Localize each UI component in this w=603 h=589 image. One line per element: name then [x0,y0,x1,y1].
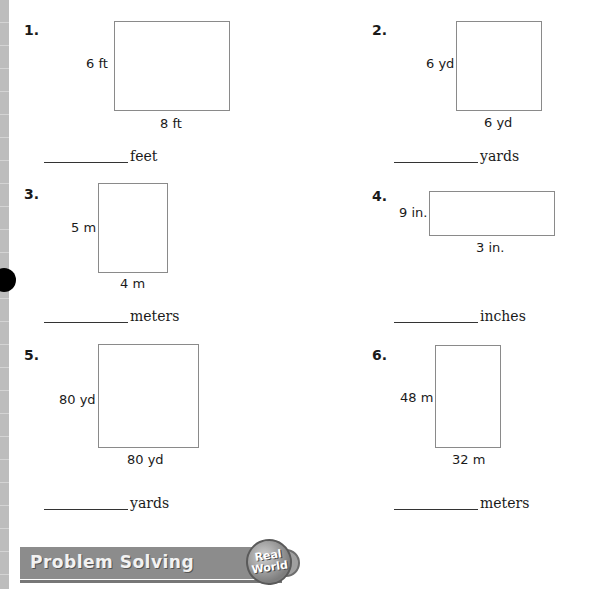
answer-unit: meters [480,496,529,510]
problem-number: 4. [372,188,387,204]
answer-unit: yards [480,149,519,163]
rectangle-figure [429,191,555,236]
binder-hole [0,268,16,292]
answer-blank[interactable] [394,495,478,510]
square-figure [98,344,199,448]
side-length-label: 6 yd [426,56,454,71]
rectangle-figure [98,183,168,273]
rectangle-figure [114,21,230,111]
bottom-length-label: 4 m [120,276,145,291]
answer-line[interactable]: yards [44,495,169,510]
answer-blank[interactable] [44,148,128,163]
bottom-length-label: 80 yd [127,452,164,467]
section-title: Problem Solving [30,552,194,572]
side-length-label: 6 ft [86,56,108,71]
answer-unit: inches [480,309,526,323]
answer-unit: yards [130,496,169,510]
page-edge-strip [0,0,9,589]
bottom-length-label: 3 in. [476,240,504,255]
problem-number: 2. [372,22,387,38]
answer-line[interactable]: meters [44,308,179,323]
problem-solving-banner: Problem Solving Real World [20,547,298,583]
banner-underline [20,580,282,583]
answer-unit: feet [130,149,157,163]
problem-number: 6. [372,347,387,363]
answer-line[interactable]: yards [394,148,519,163]
bottom-length-label: 8 ft [160,116,182,131]
side-length-label: 9 in. [399,205,427,220]
side-length-label: 48 m [400,390,433,405]
rectangle-figure [435,345,501,448]
bottom-length-label: 32 m [452,452,485,467]
answer-blank[interactable] [44,308,128,323]
answer-line[interactable]: feet [44,148,157,163]
answer-blank[interactable] [394,308,478,323]
side-length-label: 5 m [71,220,96,235]
problem-number: 1. [24,22,39,38]
answer-unit: meters [130,309,179,323]
problem-number: 5. [24,347,39,363]
side-length-label: 80 yd [59,392,96,407]
answer-blank[interactable] [394,148,478,163]
answer-line[interactable]: inches [394,308,526,323]
bottom-length-label: 6 yd [484,115,512,130]
answer-blank[interactable] [44,495,128,510]
square-figure [456,21,542,111]
badge-line-2: World [251,559,289,576]
answer-line[interactable]: meters [394,495,529,510]
problem-number: 3. [24,186,39,202]
